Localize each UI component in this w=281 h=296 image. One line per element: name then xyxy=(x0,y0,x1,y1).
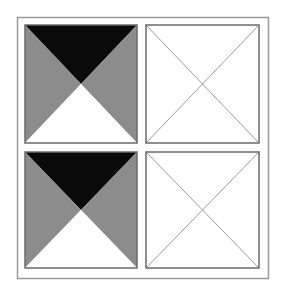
diagram-canvas xyxy=(0,0,281,296)
